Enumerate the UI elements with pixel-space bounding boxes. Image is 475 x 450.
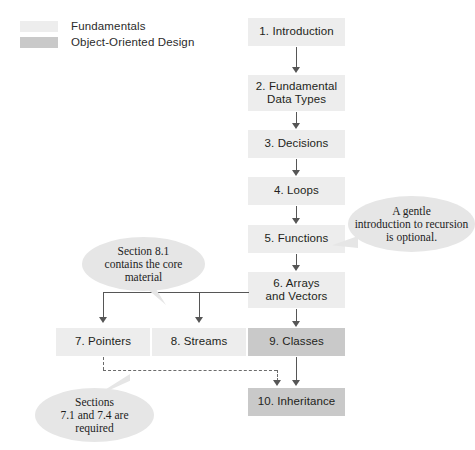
connector-ch6-branch-horizontal bbox=[103, 292, 249, 293]
connector-ch6-ch9-line bbox=[296, 309, 297, 321]
connector-ch3-ch4-arrow bbox=[292, 170, 300, 176]
diagram-canvas: Fundamentals Object-Oriented Design 1. I… bbox=[0, 0, 475, 450]
node-ch10-inheritance[interactable]: 10. Inheritance bbox=[248, 388, 345, 416]
callout-sections-71-74: Sections 7.1 and 7.4 are required bbox=[35, 388, 154, 442]
node-ch4-loops[interactable]: 4. Loops bbox=[248, 177, 345, 205]
node-ch1-introduction[interactable]: 1. Introduction bbox=[248, 18, 345, 46]
connector-ch9-ch10-line bbox=[296, 357, 297, 381]
node-ch8-streams[interactable]: 8. Streams bbox=[152, 328, 246, 356]
connector-ch4-ch5-line bbox=[296, 206, 297, 218]
callout-section-81: Section 8.1 contains the core material bbox=[82, 237, 205, 291]
legend-swatch-fundamentals bbox=[20, 21, 58, 32]
connector-ch1-ch2-line bbox=[296, 47, 297, 68]
connector-ch7-ch10-dashed-horizontal bbox=[103, 370, 277, 371]
node-ch6-arrays-and-vectors[interactable]: 6. Arrays and Vectors bbox=[248, 272, 345, 308]
connector-ch9-ch10-arrow bbox=[292, 380, 300, 386]
node-ch5-functions[interactable]: 5. Functions bbox=[248, 225, 345, 253]
node-ch9-classes[interactable]: 9. Classes bbox=[248, 328, 345, 356]
connector-ch7-arrow bbox=[99, 317, 107, 323]
connector-ch7-ch10-arrow bbox=[273, 380, 281, 386]
legend-item-fundamentals: Fundamentals bbox=[20, 20, 146, 32]
connector-ch5-ch6-arrow bbox=[292, 265, 300, 271]
legend-label-object-oriented-design: Object-Oriented Design bbox=[71, 36, 194, 48]
connector-ch7-branch-vertical bbox=[103, 292, 104, 318]
connector-ch1-ch2-arrow bbox=[292, 67, 300, 73]
connector-ch8-branch-vertical bbox=[199, 292, 200, 318]
callout-recursion: A gentle introduction to recursion is op… bbox=[348, 196, 475, 252]
connector-ch7-ch10-dashed-vertical-start bbox=[103, 357, 104, 370]
node-ch2-fundamental-data-types[interactable]: 2. Fundamental Data Types bbox=[248, 75, 345, 111]
legend-swatch-object-oriented-design bbox=[20, 37, 58, 48]
legend-label-fundamentals: Fundamentals bbox=[71, 20, 146, 32]
node-ch7-pointers[interactable]: 7. Pointers bbox=[56, 328, 150, 356]
node-ch3-decisions[interactable]: 3. Decisions bbox=[248, 130, 345, 158]
legend-item-object-oriented-design: Object-Oriented Design bbox=[20, 36, 194, 48]
connector-ch2-ch3-arrow bbox=[292, 123, 300, 129]
connector-ch6-ch9-arrow bbox=[292, 321, 300, 327]
connector-ch8-arrow bbox=[195, 317, 203, 323]
connector-ch4-ch5-arrow bbox=[292, 218, 300, 224]
